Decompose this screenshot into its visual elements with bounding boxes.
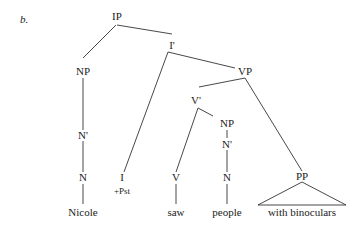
node-i-bar: I' xyxy=(169,39,175,51)
example-label: b. xyxy=(20,13,28,25)
edge-ibar-vp xyxy=(168,52,235,68)
node-n-object: N xyxy=(223,171,231,183)
edge-ip-np xyxy=(83,25,116,58)
edge-vbar-np xyxy=(198,108,213,116)
node-ip: IP xyxy=(112,10,122,22)
edge-vp-pp xyxy=(245,78,302,171)
word-nicole: Nicole xyxy=(68,206,97,218)
edge-ibar-i xyxy=(124,52,168,172)
node-v-bar: V' xyxy=(191,94,201,106)
node-np-object: NP xyxy=(220,117,234,129)
node-v: V xyxy=(172,171,180,183)
node-n-bar-subject: N' xyxy=(78,129,88,141)
phrase-with-binoculars: with binoculars xyxy=(268,206,336,218)
node-i: I xyxy=(120,171,124,183)
edge-ip-ibar xyxy=(117,25,172,34)
node-n-bar-object: N' xyxy=(222,138,232,150)
word-saw: saw xyxy=(167,206,184,218)
edge-vbar-v xyxy=(176,108,198,172)
node-n-subject: N xyxy=(79,171,87,183)
pp-triangle xyxy=(258,182,346,205)
syntax-tree: b. IP I' NP N' N Nicole I +Pst VP V' V s… xyxy=(0,0,362,228)
i-feature-past: +Pst xyxy=(114,186,131,196)
word-people: people xyxy=(212,206,241,218)
edge-vp-vbar xyxy=(199,78,245,87)
node-np-subject: NP xyxy=(76,65,90,77)
node-vp: VP xyxy=(238,65,252,77)
node-pp: PP xyxy=(296,170,308,182)
